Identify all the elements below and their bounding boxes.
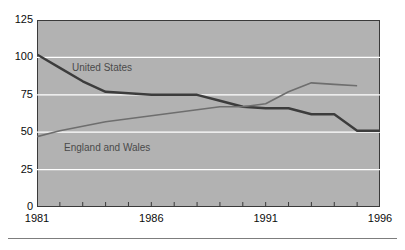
y-tick-label-0: 0 [1,201,33,212]
x-tick-label-1986: 1986 [139,212,163,224]
series-label-united-states: United States [72,62,132,73]
y-tick-label-25: 25 [1,164,33,175]
x-tick-label-1996: 1996 [368,212,392,224]
x-tick-label-1991: 1991 [253,212,277,224]
y-tick-label-75: 75 [1,89,33,100]
y-tick-label-100: 100 [1,51,33,62]
plot-canvas [37,20,380,207]
y-tick-label-125: 125 [1,14,33,25]
line-chart-figure: 0255075100125 United States England and … [0,0,405,250]
y-tick-label-50: 50 [1,126,33,137]
x-axis: 1981198619911996 [0,212,405,232]
x-tick-label-1981: 1981 [25,212,49,224]
series-line-england-and-wales [37,83,357,137]
series-label-england-and-wales: England and Wales [64,142,150,153]
figure-bottom-rule [8,238,397,239]
